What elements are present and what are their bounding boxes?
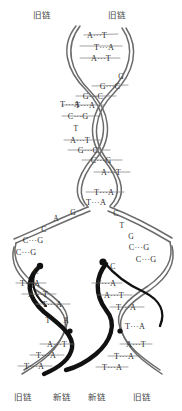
base-pair: C···G: [16, 248, 37, 257]
base-pair: A···T: [91, 54, 111, 63]
base-unpaired: T: [46, 316, 51, 325]
base-pair: A···T: [126, 340, 146, 349]
base-pair: C···G: [91, 156, 112, 165]
base-pair: A···T: [47, 340, 67, 349]
base-pair: T···A: [42, 300, 62, 309]
base-pair: T···A: [116, 303, 136, 312]
base-pair: G···C: [78, 146, 99, 155]
base-pair: T···A: [24, 362, 44, 371]
base-pair: T···A: [102, 363, 122, 372]
dna-replication-diagram: 旧链 旧链 旧链 新链 新链 旧链 A···T T···A A···T G G·…: [0, 0, 182, 411]
base-pair: A···T: [87, 31, 107, 40]
label-top-old-strand-left: 旧链: [33, 8, 52, 20]
base-unpaired: T: [120, 221, 125, 230]
base-pair: T···A: [114, 352, 134, 361]
base-unpaired: C: [110, 262, 115, 271]
label-bottom-old-strand-right: 旧链: [133, 390, 152, 402]
base-pair: T···A: [125, 322, 145, 331]
base-pair: T···A: [36, 351, 56, 360]
base-pair: C···G: [129, 243, 150, 252]
base-pair: C···G: [68, 112, 89, 121]
base-unpaired: C: [113, 209, 118, 218]
label-bottom-new-strand-left: 新链: [53, 390, 72, 402]
base-unpaired: T: [74, 124, 79, 133]
base-unpaired: A: [63, 316, 69, 325]
base-pair: A···T: [104, 291, 124, 300]
base-unpaired: C: [33, 267, 38, 276]
base-unpaired: A: [53, 214, 59, 223]
base-unpaired: G: [118, 72, 124, 81]
base-pair: T···A: [96, 279, 116, 288]
label-top-old-strand-right: 旧链: [108, 8, 127, 20]
base-pair: T···A: [20, 279, 40, 288]
base-pair: C···G: [136, 255, 157, 264]
base-pair: T···A: [75, 101, 95, 110]
base-pair: G···C: [100, 82, 121, 91]
base-unpaired: C: [41, 225, 46, 234]
label-bottom-old-strand-left: 旧链: [14, 390, 33, 402]
base-unpaired: G: [70, 208, 76, 217]
base-pair: T···A: [86, 198, 106, 207]
base-pair: A···T: [101, 168, 121, 177]
base-pair: G···C: [83, 92, 104, 101]
base-pair: T···A: [94, 43, 114, 52]
base-pair: A···T: [70, 136, 90, 145]
base-pair: A···T: [28, 290, 48, 299]
base-pair: T···A: [94, 188, 114, 197]
base-unpaired: G: [128, 232, 134, 241]
base-pair: C···G: [23, 236, 44, 245]
label-bottom-new-strand-right: 新链: [88, 390, 107, 402]
